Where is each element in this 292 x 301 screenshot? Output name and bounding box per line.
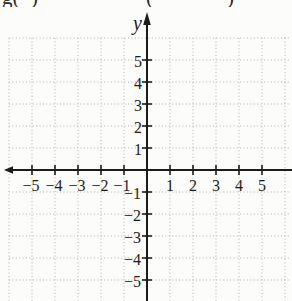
y-tick-label: 1 [134, 141, 142, 158]
coordinate-plane: y −5 −4 −3 −2 −1 1 2 3 4 5 5 4 3 2 1 −1 … [0, 0, 292, 301]
formula-fragment: ( [146, 0, 153, 7]
y-tick-label: −5 [124, 273, 141, 290]
y-tick-label: 4 [134, 75, 142, 92]
y-tick-label: −4 [124, 251, 141, 268]
x-tick-label: 5 [258, 177, 266, 194]
formula-fragment: ) [227, 0, 234, 7]
formula-fragment: g( [2, 0, 20, 7]
y-axis-label: y [131, 12, 142, 35]
y-axis [142, 12, 152, 301]
x-tick-label: −5 [22, 177, 39, 194]
x-tick-label: −3 [68, 177, 85, 194]
y-tick-label: 3 [134, 97, 142, 114]
y-tick-label: −3 [124, 229, 141, 246]
x-tick-label: 4 [235, 177, 243, 194]
textbook-figure: g( ) ( ) [0, 0, 292, 301]
y-axis-up-arrow-icon [143, 12, 151, 25]
y-tick-label: −1 [124, 185, 141, 202]
x-tick-label: −4 [45, 177, 62, 194]
y-tick-label: −2 [124, 207, 141, 224]
x-tick-label: 3 [212, 177, 220, 194]
y-tick-label: 2 [134, 119, 142, 136]
y-tick-label: 5 [134, 53, 142, 70]
y-tick-labels: 5 4 3 2 1 −1 −2 −3 −4 −5 [124, 53, 142, 290]
x-tick-label: −2 [91, 177, 108, 194]
formula-fragment: ) [31, 0, 38, 7]
x-tick-label: 2 [189, 177, 197, 194]
clipped-formula-line: g( ) ( ) [0, 0, 292, 7]
x-tick-label: 1 [166, 177, 174, 194]
